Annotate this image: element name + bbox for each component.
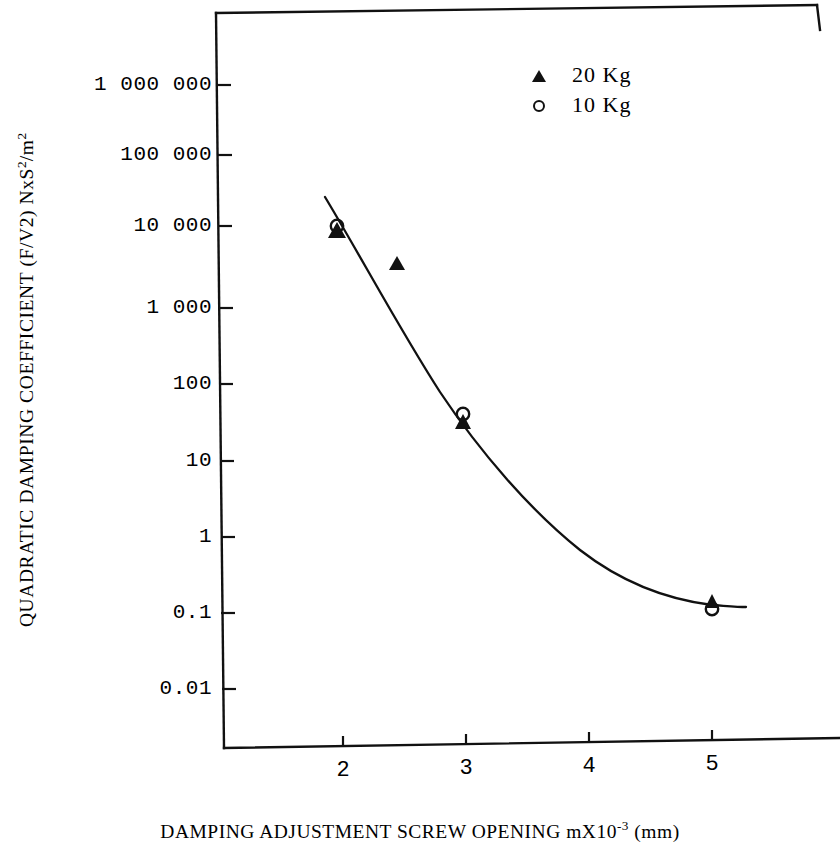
x-axis-tick-labels: 2 3 4 5 xyxy=(0,0,840,858)
open-circle-icon xyxy=(528,92,550,118)
filled-triangle-icon xyxy=(528,62,550,88)
legend-label-10kg: 10 Kg xyxy=(572,92,631,118)
x-axis-title-sup: -3 xyxy=(617,818,629,833)
legend-item-10kg: 10 Kg xyxy=(528,92,718,122)
chart-legend: 20 Kg 10 Kg xyxy=(528,62,718,122)
x-tick-label: 5 xyxy=(692,754,732,776)
x-tick-label: 4 xyxy=(569,756,609,778)
x-tick-label: 2 xyxy=(323,760,363,782)
legend-label-20kg: 20 Kg xyxy=(572,62,631,88)
legend-item-20kg: 20 Kg xyxy=(528,62,718,92)
x-axis-title-unit: (mm) xyxy=(629,821,680,842)
x-tick-label: 3 xyxy=(446,758,486,780)
x-axis-title: DAMPING ADJUSTMENT SCREW OPENING mX10-3 … xyxy=(0,818,840,843)
x-axis-title-main: DAMPING ADJUSTMENT SCREW OPENING mX10 xyxy=(160,821,617,842)
chart-figure: QUADRATIC DAMPING COEFFICIENT (F/V2) NxS… xyxy=(0,0,840,858)
